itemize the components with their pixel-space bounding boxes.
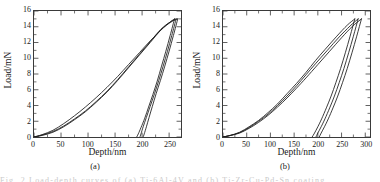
x-tick-label: 150 (104, 140, 126, 149)
x-tick-label: 50 (49, 140, 71, 149)
x-tick-label: 100 (77, 140, 99, 149)
panel-caption-a: (a) (0, 161, 190, 171)
plot-area-b (222, 10, 371, 138)
x-tick-label: 300 (355, 140, 377, 149)
y-tick-label: 4 (15, 101, 31, 110)
x-tick-label: 250 (331, 140, 353, 149)
figure-bleed-caption: Fig. 2 Load-depth curves of (a) Ti-6Al-4… (0, 176, 380, 182)
curve-indent-1-unloading (312, 19, 355, 137)
chart-panel-a: Load/mN Depth/nm (a) 0246810121416050100… (0, 0, 190, 182)
y-tick-label: 2 (204, 117, 220, 126)
curve-indent-1-loading (34, 19, 175, 137)
x-tick-label: 0 (211, 140, 233, 149)
curve-indent-3-unloading (143, 19, 178, 137)
y-tick-label: 16 (15, 5, 31, 14)
x-tick-label: 250 (159, 140, 181, 149)
y-tick-label: 6 (204, 85, 220, 94)
y-tick-label: 4 (204, 101, 220, 110)
curve-indent-3-loading (34, 19, 178, 137)
y-axis-label-a: Load/mN (3, 35, 13, 105)
x-tick-label: 0 (22, 140, 44, 149)
x-tick-label: 100 (259, 140, 281, 149)
curve-indent-1-loading (223, 19, 355, 137)
plot-svg-a (34, 11, 181, 137)
y-tick-label: 8 (204, 69, 220, 78)
y-tick-label: 8 (15, 69, 31, 78)
x-tick-label: 150 (283, 140, 305, 149)
x-tick-label: 200 (132, 140, 154, 149)
plot-svg-b (223, 11, 370, 137)
y-tick-label: 16 (204, 5, 220, 14)
figure-container: Load/mN Depth/nm (a) 0246810121416050100… (0, 0, 380, 182)
y-tick-label: 2 (15, 117, 31, 126)
chart-panel-b: Load/mN Depth/nm (b) 0246810121416050100… (190, 0, 380, 182)
y-tick-label: 12 (204, 37, 220, 46)
x-tick-label: 50 (235, 140, 257, 149)
y-tick-label: 14 (204, 21, 220, 30)
y-tick-label: 10 (15, 53, 31, 62)
x-tick-label: 200 (307, 140, 329, 149)
y-axis-label-b: Load/mN (192, 35, 202, 105)
panel-caption-b: (b) (190, 161, 380, 171)
y-tick-label: 14 (15, 21, 31, 30)
y-tick-label: 6 (15, 85, 31, 94)
y-tick-label: 12 (15, 37, 31, 46)
y-tick-label: 10 (204, 53, 220, 62)
plot-area-a (33, 10, 182, 138)
